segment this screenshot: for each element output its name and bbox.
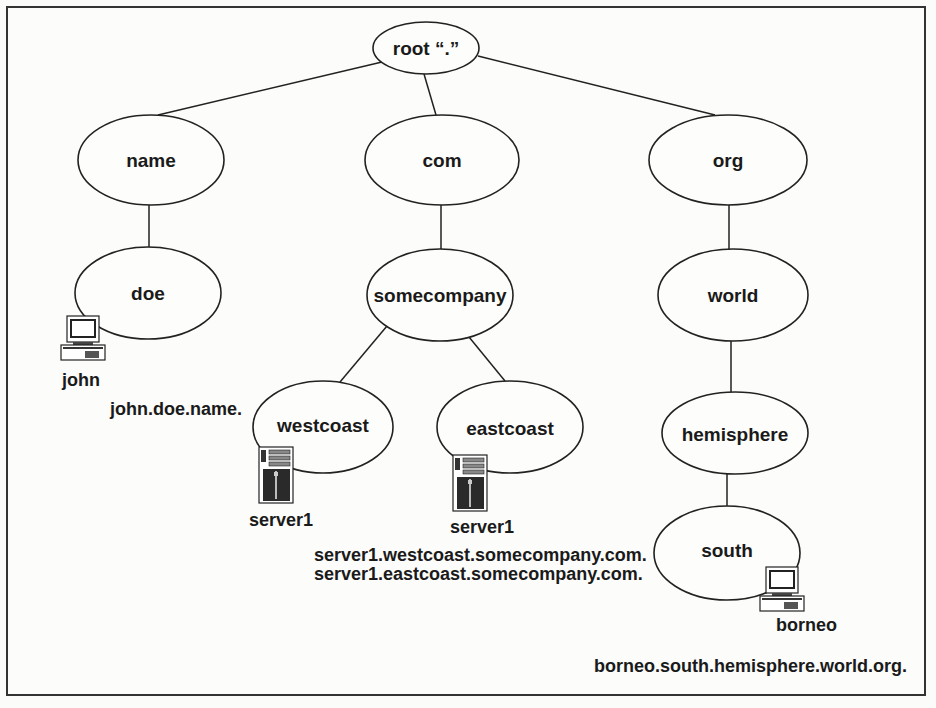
server-tower-icon	[453, 455, 487, 511]
node-label: doe	[131, 283, 165, 304]
node-label: westcoast	[276, 415, 370, 436]
edge-root-org	[478, 56, 715, 115]
node-label: eastcoast	[466, 418, 554, 439]
node-label: root “.”	[393, 38, 460, 59]
fqdn-borneo: borneo.south.hemisphere.world.org.	[594, 656, 907, 676]
node-name: name	[78, 115, 224, 205]
node-hemisphere: hemisphere	[662, 392, 808, 474]
node-label: name	[126, 150, 176, 171]
node-somecompany: somecompany	[367, 249, 513, 341]
edge-root-name	[158, 62, 382, 115]
node-org: org	[649, 115, 807, 205]
fqdn-server1-east: server1.eastcoast.somecompany.com.	[314, 564, 643, 584]
node-com: com	[365, 115, 519, 205]
node-world: world	[658, 249, 808, 341]
node-label: somecompany	[373, 285, 506, 306]
edge-somecompany-westcoast	[340, 326, 387, 382]
fqdn-server1-west: server1.westcoast.somecompany.com.	[314, 545, 647, 565]
host-label-john: john	[61, 370, 100, 390]
host-label-server1-east: server1	[450, 517, 514, 537]
host-label-server1-west: server1	[249, 510, 313, 530]
node-label: south	[701, 540, 753, 561]
fqdn-john: john.doe.name.	[109, 399, 242, 419]
server-tower-icon	[259, 447, 293, 503]
node-label: world	[707, 285, 759, 306]
edge-somecompany-eastcoast	[469, 337, 505, 381]
node-label: org	[713, 150, 744, 171]
node-label: hemisphere	[682, 424, 789, 445]
dns-tree-diagram: root “.” name com org doe somecompany wo…	[0, 0, 936, 708]
host-label-borneo: borneo	[776, 615, 837, 635]
desktop-computer-icon	[61, 316, 105, 360]
node-root: root “.”	[373, 22, 479, 74]
node-label: com	[422, 150, 461, 171]
desktop-computer-icon	[760, 567, 804, 611]
edge-root-com	[424, 74, 436, 115]
